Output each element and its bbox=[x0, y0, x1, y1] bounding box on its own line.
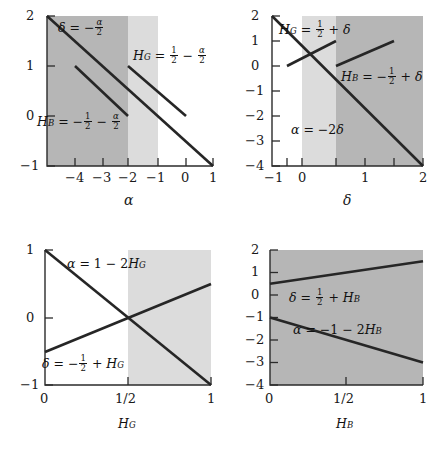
x-axis-label: δ bbox=[343, 192, 351, 208]
x-tick-label: 1 bbox=[207, 391, 215, 406]
y-tick-label: 1 bbox=[251, 264, 259, 279]
y-tick-label: −4 bbox=[245, 158, 264, 173]
x-tick-label: −4 bbox=[65, 170, 84, 185]
panel-alpha: 2 1 0 −1 −4 −3 −2 −1 0 1 2 α δ = −α2 HG … bbox=[0, 0, 221, 232]
y-tick-label: −1 bbox=[245, 83, 264, 98]
y-tick-label: −2 bbox=[245, 332, 264, 347]
x-tick-label: −1 bbox=[146, 170, 165, 185]
x-tick-label: 2 bbox=[419, 170, 427, 185]
x-tick-label: 1 bbox=[361, 170, 369, 185]
x-tick-label: 0 bbox=[40, 391, 48, 406]
y-tick-label: −1 bbox=[20, 377, 39, 392]
y-tick-label: 0 bbox=[26, 108, 34, 123]
annotation-delta: δ = 12 + HB bbox=[289, 288, 360, 307]
annotation-alpha: α = 1 − 2HG bbox=[67, 256, 146, 271]
annotation-hb: HB = −12 + δ bbox=[341, 67, 422, 86]
shaded-band-light bbox=[128, 16, 158, 166]
annotation-alpha: α = −1 − 2HB bbox=[293, 322, 382, 337]
four-panel-figure: 2 1 0 −1 −4 −3 −2 −1 0 1 2 α δ = −α2 HG … bbox=[0, 0, 442, 464]
y-tick-label: 2 bbox=[251, 8, 259, 23]
y-tick-label: 2 bbox=[26, 8, 34, 23]
panel-hg: 1 0 −1 0 1/2 1 HG α = 1 − 2HG δ = −12 + … bbox=[0, 232, 221, 464]
y-tick-label: 1 bbox=[26, 58, 34, 73]
x-tick-label: 1 bbox=[419, 391, 427, 406]
x-tick-label: −2 bbox=[118, 170, 137, 185]
x-axis-label: HB bbox=[336, 416, 353, 431]
x-tick-label: 1/2 bbox=[115, 391, 136, 406]
annotation-delta: δ = −α2 bbox=[58, 18, 104, 37]
y-tick-label: −3 bbox=[245, 354, 264, 369]
y-tick-label: 0 bbox=[251, 287, 259, 302]
shaded-band-dark bbox=[47, 16, 128, 166]
annotation-delta: δ = −12 + HG bbox=[42, 354, 124, 373]
x-axis-label: HG bbox=[118, 416, 136, 431]
y-tick-label: −3 bbox=[245, 133, 264, 148]
panel-hb: 2 1 0 −1 −2 −3 −4 0 1/2 1 HB δ = 12 + HB… bbox=[221, 232, 442, 464]
annotation-hb: HB = −12 − α2 bbox=[37, 112, 121, 131]
x-tick-label: 0 bbox=[181, 170, 189, 185]
y-tick-label: −1 bbox=[245, 309, 264, 324]
y-tick-label: 0 bbox=[251, 58, 259, 73]
annotation-alpha: α = −2δ bbox=[291, 122, 344, 137]
annotation-hg: HG = 12 + δ bbox=[279, 20, 351, 39]
y-tick-label: −1 bbox=[20, 158, 39, 173]
x-tick-label: 0 bbox=[298, 170, 306, 185]
panel-delta: 2 1 0 −1 −2 −3 −4 −1 0 1 2 δ HG = 12 + δ… bbox=[221, 0, 442, 232]
y-tick-label: −4 bbox=[245, 377, 264, 392]
y-tick-label: −2 bbox=[245, 108, 264, 123]
x-tick-label: −3 bbox=[92, 170, 111, 185]
x-axis-label: α bbox=[124, 192, 133, 208]
shaded-band-dark bbox=[270, 250, 423, 385]
x-tick-label: 1 bbox=[209, 170, 217, 185]
x-tick-label: −1 bbox=[264, 170, 283, 185]
annotation-hg: HG = 12 − α2 bbox=[133, 46, 207, 65]
y-tick-label: 2 bbox=[251, 242, 259, 257]
x-tick-label: 0 bbox=[265, 391, 273, 406]
y-tick-label: 0 bbox=[26, 310, 34, 325]
y-tick-label: 1 bbox=[251, 33, 259, 48]
y-tick-label: 1 bbox=[26, 242, 34, 257]
x-tick-label: 1/2 bbox=[333, 391, 354, 406]
